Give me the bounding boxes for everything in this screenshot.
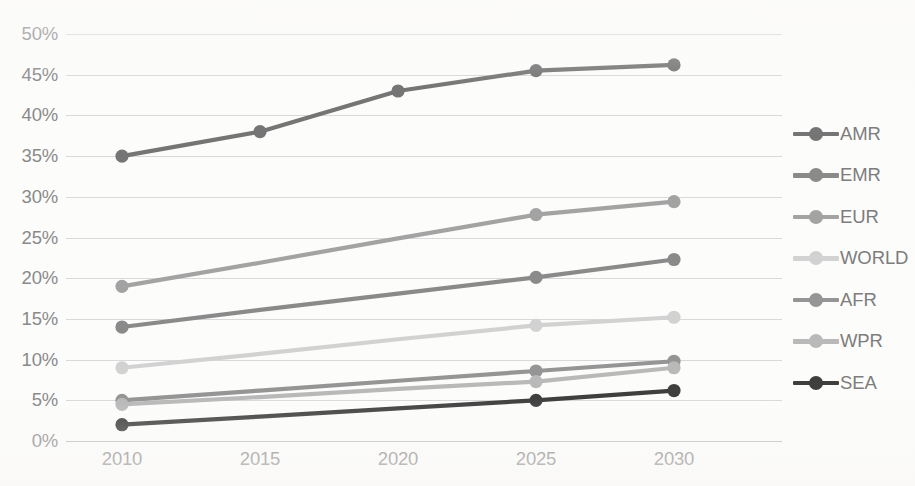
series-line (122, 259, 674, 327)
legend-swatch-icon (793, 209, 839, 225)
y-axis-tick-label: 30% (2, 186, 58, 208)
legend-swatch-icon (793, 126, 839, 142)
series-amr (115, 58, 680, 162)
legend-marker-icon (809, 210, 823, 224)
y-axis-tick-label: 5% (2, 389, 58, 411)
legend-swatch-icon (793, 333, 839, 349)
x-axis-tick-label: 2030 (654, 448, 694, 470)
series-layer (66, 34, 782, 441)
x-axis-tick-label: 2010 (102, 448, 142, 470)
data-point-marker (253, 125, 266, 138)
legend-item-label: AMR (840, 123, 881, 145)
legend-swatch-icon (793, 292, 839, 308)
data-point-marker (529, 271, 542, 284)
legend-item-label: EUR (840, 206, 879, 228)
legend-item-label: EMR (840, 164, 881, 186)
legend-swatch-icon (793, 250, 839, 266)
series-line (122, 317, 674, 367)
data-point-marker (115, 150, 128, 163)
legend-item-label: WPR (840, 330, 883, 352)
x-axis-tick-label: 2015 (240, 448, 280, 470)
y-axis-tick-label: 10% (2, 349, 58, 371)
series-line (122, 368, 674, 405)
series-line (122, 65, 674, 156)
data-point-marker (667, 58, 680, 71)
x-axis-baseline (66, 441, 782, 442)
data-point-marker (115, 361, 128, 374)
legend-marker-icon (809, 376, 823, 390)
y-axis-tick-label: 15% (2, 308, 58, 330)
legend-item-amr[interactable]: AMR (793, 113, 911, 155)
data-point-marker (529, 394, 542, 407)
data-point-marker (667, 195, 680, 208)
series-line (122, 202, 674, 287)
legend-marker-icon (809, 334, 823, 348)
series-eur (115, 195, 680, 293)
series-sea (115, 384, 680, 431)
y-axis-tick-label: 50% (2, 23, 58, 45)
legend-item-sea[interactable]: SEA (793, 362, 911, 404)
legend-item-world[interactable]: WORLD (793, 238, 911, 280)
x-axis: 20102015202020252030 (66, 448, 782, 478)
x-axis-tick-label: 2025 (516, 448, 556, 470)
legend-item-eur[interactable]: EUR (793, 196, 911, 238)
legend-marker-icon (809, 251, 823, 265)
data-point-marker (529, 375, 542, 388)
y-axis-tick-label: 0% (2, 430, 58, 452)
y-axis-tick-label: 40% (2, 104, 58, 126)
legend-item-label: AFR (840, 289, 877, 311)
data-point-marker (667, 361, 680, 374)
data-point-marker (667, 311, 680, 324)
data-point-marker (115, 418, 128, 431)
y-axis-tick-label: 20% (2, 267, 58, 289)
legend-marker-icon (809, 127, 823, 141)
data-point-marker (115, 398, 128, 411)
y-axis-tick-label: 25% (2, 227, 58, 249)
legend-marker-icon (809, 293, 823, 307)
data-point-marker (115, 320, 128, 333)
plot-area (66, 34, 782, 441)
data-point-marker (529, 64, 542, 77)
line-chart: 0%5%10%15%20%25%30%35%40%45%50% 20102015… (0, 0, 915, 486)
data-point-marker (667, 384, 680, 397)
legend-swatch-icon (793, 375, 839, 391)
legend-item-wpr[interactable]: WPR (793, 321, 911, 363)
x-axis-tick-label: 2020 (378, 448, 418, 470)
legend-swatch-icon (793, 167, 839, 183)
legend: AMREMREURWORLDAFRWPRSEA (793, 113, 911, 404)
legend-item-afr[interactable]: AFR (793, 279, 911, 321)
legend-marker-icon (809, 168, 823, 182)
data-point-marker (391, 84, 404, 97)
legend-item-emr[interactable]: EMR (793, 155, 911, 197)
data-point-marker (667, 253, 680, 266)
y-axis: 0%5%10%15%20%25%30%35%40%45%50% (0, 34, 58, 441)
legend-item-label: WORLD (840, 247, 908, 269)
data-point-marker (529, 319, 542, 332)
data-point-marker (115, 280, 128, 293)
y-axis-tick-label: 45% (2, 64, 58, 86)
legend-item-label: SEA (840, 372, 877, 394)
data-point-marker (529, 208, 542, 221)
y-axis-tick-label: 35% (2, 145, 58, 167)
